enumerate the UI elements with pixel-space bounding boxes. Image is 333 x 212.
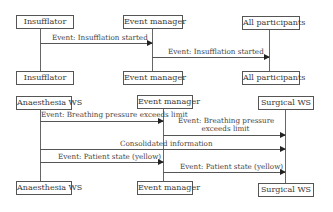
message-arrow xyxy=(152,57,269,58)
participant-surgical-ws-bottom: Surgical WS xyxy=(258,183,314,197)
message-arrow xyxy=(40,121,163,122)
message-arrow xyxy=(163,172,285,173)
participant-event-manager-top: Event manager xyxy=(123,15,183,29)
participant-all-participants-bottom: All participants xyxy=(242,71,300,85)
arrowhead-icon xyxy=(158,118,164,124)
message-arrow xyxy=(163,135,285,136)
message-label: Event: Patient state (yellow) xyxy=(58,153,161,161)
message-arrow xyxy=(40,162,163,163)
participant-event-manager-2-top: Event manager xyxy=(137,95,193,109)
participant-all-participants-top: All participants xyxy=(242,16,300,30)
lifeline-all-participants xyxy=(269,30,270,71)
participant-anaesthesia-ws-bottom: Anaesthesia WS xyxy=(16,181,72,195)
participant-event-manager-bottom: Event manager xyxy=(123,71,183,85)
arrowhead-icon xyxy=(280,132,286,138)
message-arrow xyxy=(40,149,285,150)
participant-insufflator-top: Insufflator xyxy=(16,15,74,29)
arrowhead-icon xyxy=(158,159,164,165)
message-label: Event: Breathing pressure exceeds limit xyxy=(178,117,273,133)
message-label: Consolidated information xyxy=(120,140,213,148)
arrowhead-icon xyxy=(264,54,270,60)
message-label-line2: exceeds limit xyxy=(178,125,273,133)
message-label: Event: Insufflation started xyxy=(168,48,264,56)
message-label: Event: Insufflation started xyxy=(52,34,148,42)
message-label: Event: Breathing pressure exceeds limit xyxy=(41,111,188,119)
lifeline-anaesthesia-ws xyxy=(40,109,41,181)
message-arrow xyxy=(40,43,152,44)
lifeline-insufflator xyxy=(40,29,41,71)
participant-surgical-ws-top: Surgical WS xyxy=(258,96,314,110)
participant-insufflator-bottom: Insufflator xyxy=(16,71,74,85)
message-label: Event: Patient state (yellow) xyxy=(180,163,283,171)
arrowhead-icon xyxy=(147,40,153,46)
arrowhead-icon xyxy=(280,169,286,175)
lifeline-event-manager-top xyxy=(152,29,153,71)
arrowhead-icon xyxy=(280,146,286,152)
participant-event-manager-2-bottom: Event manager xyxy=(137,181,193,195)
participant-anaesthesia-ws-top: Anaesthesia WS xyxy=(16,96,72,110)
